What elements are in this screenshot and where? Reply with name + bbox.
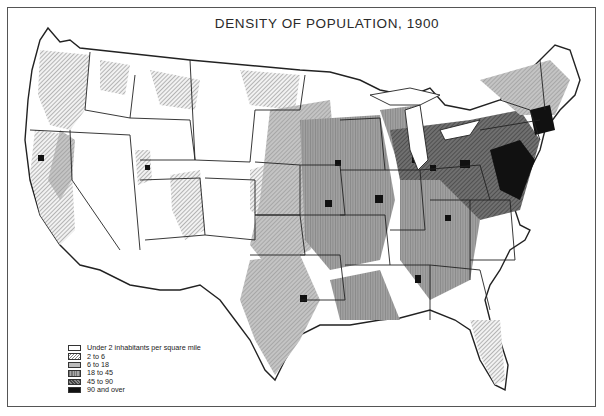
legend-swatch-2-to-6 <box>68 353 81 360</box>
legend-swatch-45-to-90 <box>68 379 81 386</box>
legend-swatch-6-to-18 <box>68 362 81 369</box>
map-title: DENSITY OF POPULATION, 1900 <box>0 16 604 31</box>
legend: Under 2 inhabitants per square mile 2 to… <box>68 344 201 394</box>
legend-swatch-under-2 <box>68 345 81 352</box>
legend-swatch-90-and-over <box>68 387 81 394</box>
legend-label: 90 and over <box>87 386 125 394</box>
legend-label: Under 2 inhabitants per square mile <box>87 344 201 352</box>
legend-swatch-18-to-45 <box>68 370 81 377</box>
legend-item: 90 and over <box>68 386 201 394</box>
